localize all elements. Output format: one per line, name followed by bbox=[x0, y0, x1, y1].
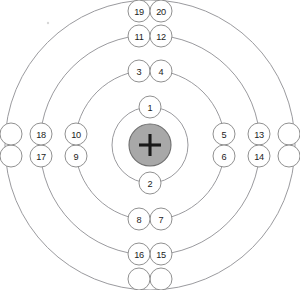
scan-speck bbox=[47, 22, 49, 24]
electron-6-label: 6 bbox=[222, 152, 227, 162]
electron-5-label: 5 bbox=[222, 130, 227, 140]
electron-8: 8 bbox=[128, 208, 150, 230]
electron-19-label: 19 bbox=[134, 7, 144, 17]
electron-18-label: 18 bbox=[36, 130, 46, 140]
electron-1: 1 bbox=[139, 96, 161, 118]
shell-4-vacant-slot-7 bbox=[0, 123, 22, 145]
electron-4-label: 4 bbox=[159, 67, 164, 77]
electron-15: 15 bbox=[150, 243, 172, 265]
electron-17: 17 bbox=[30, 145, 52, 167]
electron-3: 3 bbox=[128, 60, 150, 82]
electron-14: 14 bbox=[248, 145, 270, 167]
atom-shell-diagram: 1234567891011121314151617181920 bbox=[0, 0, 300, 290]
electron-11: 11 bbox=[128, 25, 150, 47]
electron-13: 13 bbox=[248, 123, 270, 145]
electron-13-label: 13 bbox=[254, 130, 264, 140]
shell-4-vacant-slot-7-disc bbox=[0, 123, 22, 145]
electron-20-label: 20 bbox=[156, 7, 166, 17]
shell-4-vacant-slot-6-disc bbox=[0, 145, 22, 167]
electron-1-label: 1 bbox=[148, 103, 153, 113]
shell-4-vacant-slot-3 bbox=[278, 145, 300, 167]
electron-17-label: 17 bbox=[36, 152, 46, 162]
shell-4-vacant-slot-2 bbox=[278, 123, 300, 145]
electron-10: 10 bbox=[65, 123, 87, 145]
electron-9: 9 bbox=[65, 145, 87, 167]
electron-15-label: 15 bbox=[156, 250, 166, 260]
electron-10-label: 10 bbox=[71, 130, 81, 140]
electron-7: 7 bbox=[150, 208, 172, 230]
electron-11-label: 11 bbox=[135, 32, 144, 42]
nucleus-group bbox=[129, 124, 171, 166]
electron-18: 18 bbox=[30, 123, 52, 145]
electron-16: 16 bbox=[128, 243, 150, 265]
electron-5: 5 bbox=[213, 123, 235, 145]
electron-8-label: 8 bbox=[137, 215, 142, 225]
shell-4-vacant-slot-4 bbox=[150, 268, 172, 290]
electron-2: 2 bbox=[139, 172, 161, 194]
electron-3-label: 3 bbox=[137, 67, 142, 77]
electron-6: 6 bbox=[213, 145, 235, 167]
electron-7-label: 7 bbox=[159, 215, 164, 225]
electron-16-label: 16 bbox=[134, 250, 144, 260]
electron-9-label: 9 bbox=[74, 152, 79, 162]
electron-4: 4 bbox=[150, 60, 172, 82]
electron-2-label: 2 bbox=[148, 179, 153, 189]
shell-4-vacant-slot-6 bbox=[0, 145, 22, 167]
electron-20: 20 bbox=[150, 0, 172, 22]
electron-19: 19 bbox=[128, 0, 150, 22]
shell-4-vacant-slot-3-disc bbox=[278, 145, 300, 167]
shell-4-vacant-slot-5-disc bbox=[128, 268, 150, 290]
electron-12: 12 bbox=[150, 25, 172, 47]
electron-14-label: 14 bbox=[254, 152, 264, 162]
diagram-canvas: 1234567891011121314151617181920 bbox=[0, 0, 300, 290]
scan-artifacts-group bbox=[47, 22, 49, 24]
shell-4-vacant-slot-4-disc bbox=[150, 268, 172, 290]
shell-4-vacant-slot-2-disc bbox=[278, 123, 300, 145]
shell-4-vacant-slot-5 bbox=[128, 268, 150, 290]
electron-12-label: 12 bbox=[156, 32, 166, 42]
